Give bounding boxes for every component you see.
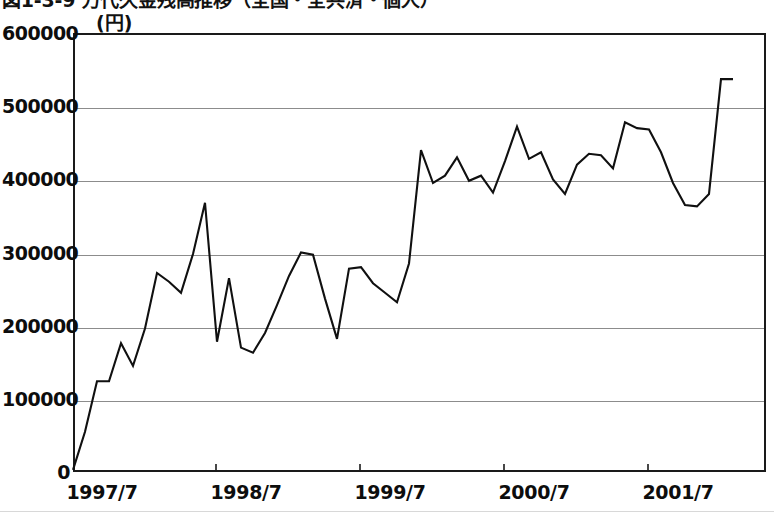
data-series-layer — [0, 0, 774, 512]
x-axis-ticks — [216, 464, 648, 472]
data-line-series — [73, 79, 733, 470]
chart-figure: 図1-3-9 万代久金残高推移（全国・全共済・個人） (円) 600000 50… — [0, 0, 774, 512]
